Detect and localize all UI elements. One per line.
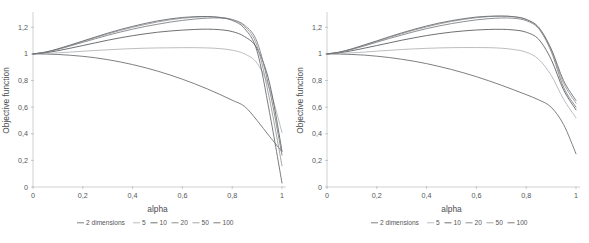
left-panel-legend: 2 dimensions5102050100 bbox=[77, 219, 234, 226]
left-chart-panel: 00,20,40,60,811,200,20,40,60,81alphaObje… bbox=[0, 0, 294, 243]
left-panel-x-tick-label: 1 bbox=[280, 191, 284, 200]
right-panel-x-tick-label: 0,2 bbox=[372, 191, 382, 200]
right-panel-legend: 2 dimensions5102050100 bbox=[371, 219, 528, 226]
left-panel-curve-5-dimensions bbox=[33, 48, 282, 133]
left-panel-svg: 00,20,40,60,811,200,20,40,60,81alphaObje… bbox=[0, 0, 294, 243]
right-chart-panel: 00,20,40,60,811,200,20,40,60,81alphaObje… bbox=[294, 0, 588, 243]
left-panel-legend-label-5: 100 bbox=[223, 219, 234, 226]
left-panel-y-axis-title: Objective function bbox=[1, 67, 11, 134]
right-panel-x-axis-title: alpha bbox=[441, 204, 462, 214]
left-panel-x-tick-label: 0 bbox=[31, 191, 35, 200]
right-panel-legend-label-4: 50 bbox=[496, 219, 504, 226]
right-panel-series-group bbox=[327, 16, 576, 154]
right-panel-legend-label-3: 20 bbox=[475, 219, 483, 226]
right-panel-curve-5-dimensions bbox=[327, 48, 576, 118]
right-panel-y-tick-label: 0,2 bbox=[312, 156, 322, 165]
left-panel-x-tick-label: 0,8 bbox=[227, 191, 237, 200]
right-panel-legend-label-1: 5 bbox=[436, 219, 440, 226]
left-panel-x-tick-label: 0,6 bbox=[177, 191, 187, 200]
left-panel-axes bbox=[33, 12, 286, 187]
left-panel-y-tick-label: 0,2 bbox=[18, 156, 28, 165]
right-panel-y-tick-label: 1 bbox=[318, 49, 322, 58]
left-panel-curve-20-dimensions bbox=[33, 18, 282, 155]
left-panel-curve-10-dimensions bbox=[33, 29, 282, 151]
left-panel-y-tick-label: 1 bbox=[24, 49, 28, 58]
left-panel-y-tick-label: 0,4 bbox=[18, 129, 28, 138]
right-panel-legend-label-5: 100 bbox=[517, 219, 528, 226]
right-panel-x-tick-group: 00,20,40,60,81 bbox=[325, 186, 578, 200]
left-panel-legend-label-4: 50 bbox=[202, 219, 210, 226]
left-panel-y-tick-label: 1,2 bbox=[18, 23, 28, 32]
right-panel-x-tick-label: 0,6 bbox=[471, 191, 481, 200]
right-panel-axes bbox=[327, 12, 580, 187]
left-panel-legend-label-1: 5 bbox=[142, 219, 146, 226]
left-panel-legend-label-3: 20 bbox=[181, 219, 189, 226]
left-panel-x-tick-label: 0,4 bbox=[128, 191, 138, 200]
left-panel-x-axis-title: alpha bbox=[147, 204, 168, 214]
right-panel-y-tick-label: 0,4 bbox=[312, 129, 322, 138]
right-panel-y-tick-label: 0 bbox=[318, 183, 322, 192]
right-panel-curve-2-dimensions bbox=[327, 54, 576, 154]
left-panel-y-tick-label: 0 bbox=[24, 183, 28, 192]
right-panel-x-tick-label: 0,4 bbox=[422, 191, 432, 200]
right-panel-svg: 00,20,40,60,811,200,20,40,60,81alphaObje… bbox=[294, 0, 588, 243]
right-panel-x-tick-label: 0,8 bbox=[521, 191, 531, 200]
figure-two-panel-line-charts: 00,20,40,60,811,200,20,40,60,81alphaObje… bbox=[0, 0, 589, 243]
right-panel-x-tick-label: 0 bbox=[325, 191, 329, 200]
right-panel-y-tick-label: 0,6 bbox=[312, 103, 322, 112]
left-panel-y-axis-title-group: Objective function bbox=[1, 67, 11, 134]
left-panel-y-tick-label: 0,8 bbox=[18, 76, 28, 85]
left-panel-y-tick-group: 00,20,40,60,811,2 bbox=[18, 23, 34, 192]
right-panel-y-axis-title: Objective function bbox=[295, 67, 305, 134]
right-panel-legend-label-0: 2 dimensions bbox=[380, 219, 420, 226]
right-panel-y-tick-label: 1,2 bbox=[312, 23, 322, 32]
right-panel-y-tick-label: 0,8 bbox=[312, 76, 322, 85]
right-panel-y-axis-title-group: Objective function bbox=[295, 67, 305, 134]
right-panel-x-tick-label: 1 bbox=[574, 191, 578, 200]
left-panel-curve-2-dimensions bbox=[33, 54, 282, 152]
left-panel-x-tick-label: 0,2 bbox=[78, 191, 88, 200]
left-panel-x-tick-group: 00,20,40,60,81 bbox=[31, 186, 284, 200]
left-panel-legend-label-2: 10 bbox=[160, 219, 168, 226]
left-panel-legend-label-0: 2 dimensions bbox=[86, 219, 126, 226]
right-panel-legend-label-2: 10 bbox=[454, 219, 462, 226]
left-panel-series-group bbox=[33, 16, 282, 183]
left-panel-curve-50-dimensions bbox=[33, 17, 282, 166]
left-panel-curve-100-dimensions bbox=[33, 16, 282, 183]
left-panel-y-tick-label: 0,6 bbox=[18, 103, 28, 112]
right-panel-y-tick-group: 00,20,40,60,811,2 bbox=[312, 23, 328, 192]
right-panel-curve-20-dimensions bbox=[327, 18, 576, 107]
